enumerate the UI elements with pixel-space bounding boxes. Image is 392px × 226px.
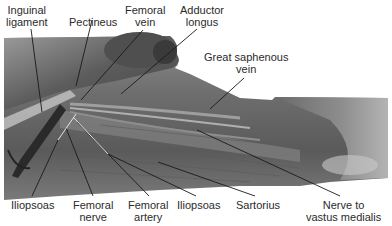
leader-iliopsoas-left <box>32 140 58 196</box>
label-line: Pectineus <box>69 16 117 28</box>
label-sartorius: Sartorius <box>236 199 280 211</box>
leader-adductor-longus <box>121 29 197 94</box>
label-line: artery <box>128 211 168 223</box>
leader-lines <box>0 0 392 226</box>
label-adductor-longus: Adductor longus <box>180 4 224 28</box>
leader-inguinal-ligament <box>31 29 42 112</box>
label-line: Great saphenous <box>204 51 288 63</box>
label-line: Femoral <box>128 199 168 211</box>
leader-pectineus <box>76 20 92 86</box>
label-line: Femoral <box>125 4 165 16</box>
leader-sartorius <box>158 162 255 196</box>
label-line: Nerve to <box>306 199 381 211</box>
label-nerve-to-vastus-medialis: Nerve to vastus medialis <box>306 199 381 223</box>
label-line: Iliopsoas <box>11 199 54 211</box>
label-femoral-artery: Femoral artery <box>128 199 168 223</box>
label-inguinal-ligament: Inguinal ligament <box>6 4 48 28</box>
label-great-saphenous-vein: Great saphenous vein <box>204 51 288 75</box>
leader-great-saphenous-vein <box>210 78 244 109</box>
label-line: vastus medialis <box>306 211 381 223</box>
label-iliopsoas-left: Iliopsoas <box>11 199 54 211</box>
label-line: Femoral <box>73 199 113 211</box>
label-iliopsoas-right: Iliopsoas <box>177 199 220 211</box>
leader-femoral-nerve <box>66 128 93 196</box>
leader-iliopsoas-right <box>108 154 196 196</box>
leader-nerve-to-vastus-medialis <box>197 130 340 196</box>
label-femoral-nerve: Femoral nerve <box>73 199 113 223</box>
label-pectineus: Pectineus <box>69 16 117 28</box>
label-line: Sartorius <box>236 199 280 211</box>
label-line: Iliopsoas <box>177 199 220 211</box>
label-femoral-vein: Femoral vein <box>125 4 165 28</box>
label-line: ligament <box>6 16 48 28</box>
label-line: Inguinal <box>6 4 48 16</box>
label-line: Adductor <box>180 4 224 16</box>
label-line: vein <box>125 16 165 28</box>
label-line: vein <box>204 63 288 75</box>
leader-femoral-vein <box>81 30 143 100</box>
label-line: longus <box>180 16 224 28</box>
label-line: nerve <box>73 211 113 223</box>
